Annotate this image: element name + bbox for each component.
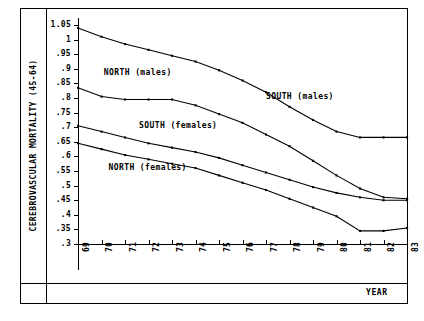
- data-point-marker: [195, 167, 197, 169]
- data-point-marker: [312, 207, 314, 209]
- data-point-marker: [218, 174, 220, 176]
- x-tick-label: 83: [411, 242, 420, 252]
- data-point-marker: [195, 104, 197, 106]
- data-point-marker: [124, 98, 126, 100]
- data-point-marker: [383, 199, 385, 201]
- data-point-marker: [148, 158, 150, 160]
- series-annotation: NORTH (males): [104, 68, 172, 77]
- data-point-marker: [124, 43, 126, 45]
- data-point-marker: [312, 119, 314, 121]
- data-point-marker: [289, 179, 291, 181]
- data-point-marker: [383, 136, 385, 138]
- data-point-marker: [195, 151, 197, 153]
- data-point-marker: [101, 131, 103, 133]
- data-point-marker: [242, 79, 244, 81]
- data-point-marker: [265, 134, 267, 136]
- data-point-marker: [359, 136, 361, 138]
- data-point-marker: [336, 192, 338, 194]
- data-point-marker: [77, 142, 79, 144]
- data-point-marker: [289, 145, 291, 147]
- data-point-marker: [383, 196, 385, 198]
- series-line: [78, 28, 407, 138]
- x-axis-title: YEAR: [366, 288, 388, 297]
- series-annotation: SOUTH (males): [266, 92, 334, 101]
- series-annotation: SOUTH (females): [139, 121, 217, 130]
- data-point-marker: [265, 189, 267, 191]
- data-point-marker: [242, 122, 244, 124]
- data-point-marker: [312, 160, 314, 162]
- data-point-marker: [124, 136, 126, 138]
- data-point-marker: [77, 87, 79, 89]
- data-point-marker: [77, 27, 79, 29]
- data-point-marker: [148, 98, 150, 100]
- data-point-marker: [406, 136, 408, 138]
- plot-area: 1.051.95.9.85.8.75.7.65.6.55.5.45.4.35.3…: [46, 8, 408, 283]
- series-lines: [46, 8, 408, 283]
- data-point-marker: [171, 98, 173, 100]
- data-point-marker: [124, 154, 126, 156]
- y-axis-title-text: CEREBROVASCULAR MORTALITY (45-64): [29, 59, 38, 231]
- data-point-marker: [406, 227, 408, 229]
- data-point-marker: [289, 198, 291, 200]
- data-point-marker: [171, 147, 173, 149]
- data-point-marker: [148, 142, 150, 144]
- data-point-marker: [336, 174, 338, 176]
- data-point-marker: [218, 157, 220, 159]
- data-point-marker: [336, 215, 338, 217]
- data-point-marker: [77, 125, 79, 127]
- data-point-marker: [171, 55, 173, 57]
- data-point-marker: [148, 49, 150, 51]
- data-point-marker: [289, 106, 291, 108]
- chart-figure: CEREBROVASCULAR MORTALITY (45-64) YEAR 1…: [0, 0, 424, 321]
- data-point-marker: [242, 182, 244, 184]
- data-point-marker: [242, 164, 244, 166]
- data-point-marker: [359, 230, 361, 232]
- data-point-marker: [195, 61, 197, 63]
- xlabel-strip-divider: [20, 283, 408, 284]
- data-point-marker: [383, 230, 385, 232]
- y-axis-title: CEREBROVASCULAR MORTALITY (45-64): [20, 8, 46, 283]
- data-point-marker: [265, 171, 267, 173]
- data-point-marker: [101, 36, 103, 38]
- data-point-marker: [406, 199, 408, 201]
- data-point-marker: [359, 196, 361, 198]
- data-point-marker: [101, 96, 103, 98]
- data-point-marker: [312, 186, 314, 188]
- series-annotation: NORTH (females): [109, 163, 187, 172]
- data-point-marker: [101, 148, 103, 150]
- data-point-marker: [336, 131, 338, 133]
- data-point-marker: [359, 188, 361, 190]
- data-point-marker: [218, 69, 220, 71]
- data-point-marker: [218, 113, 220, 115]
